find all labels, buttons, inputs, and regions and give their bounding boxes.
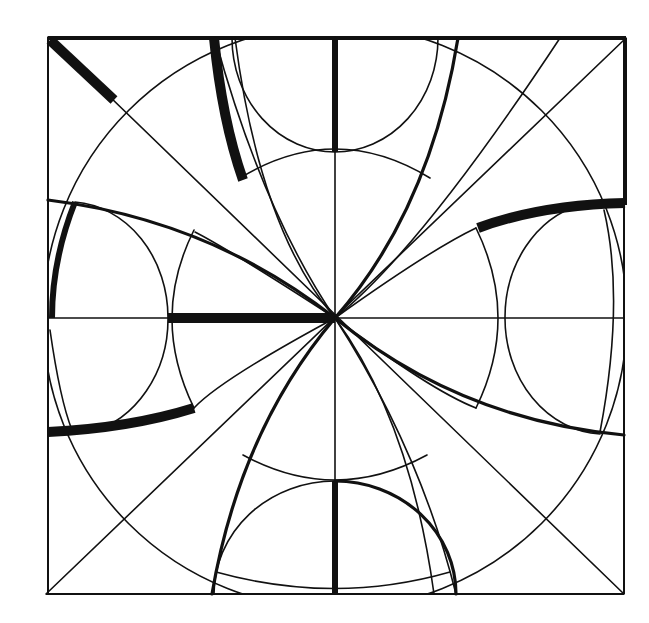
left-semicircle	[50, 202, 194, 432]
geometric-diagram	[0, 0, 649, 623]
right-semicircle	[476, 205, 614, 434]
